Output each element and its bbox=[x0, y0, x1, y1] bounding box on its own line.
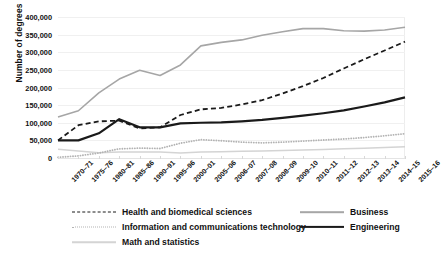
y-tick-label: 0 bbox=[0, 154, 52, 163]
y-tick-label: 300,000 bbox=[0, 48, 52, 57]
legend-swatch bbox=[300, 207, 344, 217]
x-tick-mark bbox=[201, 156, 202, 159]
legend-label: Health and biomedical sciences bbox=[122, 208, 252, 217]
y-tick-label: 350,000 bbox=[0, 30, 52, 39]
legend-swatch bbox=[72, 222, 116, 232]
x-tick-mark bbox=[160, 156, 161, 159]
legend-item[interactable]: Information and communications technolog… bbox=[72, 222, 306, 232]
y-tick-label: 50,000 bbox=[0, 136, 52, 145]
plot-area bbox=[58, 17, 405, 158]
legend-label: Math and statistics bbox=[122, 238, 199, 247]
y-tick-label: 100,000 bbox=[0, 118, 52, 127]
y-tick-label: 200,000 bbox=[0, 83, 52, 92]
legend-swatch bbox=[72, 207, 116, 217]
x-tick-label: 2014–15 bbox=[397, 159, 421, 183]
y-tick-label: 150,000 bbox=[0, 101, 52, 110]
x-tick-mark bbox=[242, 156, 243, 159]
legend-label: Engineering bbox=[350, 223, 400, 232]
x-tick-mark bbox=[303, 156, 304, 159]
x-tick-mark bbox=[405, 156, 406, 159]
x-axis-tick-labels: 1970–711975–761980–811985–861990–911995–… bbox=[58, 159, 405, 201]
x-tick-mark bbox=[119, 156, 120, 159]
chart-legend: Health and biomedical sciencesInformatio… bbox=[0, 205, 414, 255]
x-tick-mark bbox=[99, 156, 100, 159]
x-tick-mark bbox=[323, 156, 324, 159]
legend-swatch bbox=[72, 237, 116, 247]
legend-label: Information and communications technolog… bbox=[122, 223, 306, 232]
x-tick-mark bbox=[344, 156, 345, 159]
x-tick-label: 2011–12 bbox=[335, 159, 359, 183]
y-tick-label: 250,000 bbox=[0, 65, 52, 74]
legend-swatch bbox=[300, 222, 344, 232]
x-tick-mark bbox=[283, 156, 284, 159]
x-tick-label: 2009–10 bbox=[295, 159, 319, 183]
x-tick-mark bbox=[58, 156, 59, 159]
y-tick-label: 400,000 bbox=[0, 13, 52, 22]
legend-item[interactable]: Engineering bbox=[300, 222, 400, 232]
legend-item[interactable]: Business bbox=[300, 207, 388, 217]
x-tick-label: 2006–07 bbox=[233, 159, 257, 183]
x-tick-mark bbox=[140, 156, 141, 159]
series-lines bbox=[58, 17, 405, 158]
x-tick-label: 2000–01 bbox=[192, 159, 216, 183]
series-line bbox=[58, 134, 405, 158]
x-tick-mark bbox=[364, 156, 365, 159]
x-tick-mark bbox=[262, 156, 263, 159]
legend-label: Business bbox=[350, 208, 388, 217]
legend-item[interactable]: Math and statistics bbox=[72, 237, 199, 247]
x-tick-mark bbox=[78, 156, 79, 159]
x-tick-label: 1990–91 bbox=[152, 159, 176, 183]
x-tick-mark bbox=[221, 156, 222, 159]
x-tick-label: 2007–08 bbox=[254, 159, 278, 183]
x-tick-mark bbox=[180, 156, 181, 159]
series-line bbox=[58, 27, 405, 117]
y-axis-tick-labels: 400,000350,000300,000250,000200,000150,0… bbox=[0, 17, 52, 158]
series-line bbox=[58, 97, 405, 140]
legend-item[interactable]: Health and biomedical sciences bbox=[72, 207, 252, 217]
x-tick-label: 1975–76 bbox=[90, 159, 114, 183]
x-tick-mark bbox=[385, 156, 386, 159]
